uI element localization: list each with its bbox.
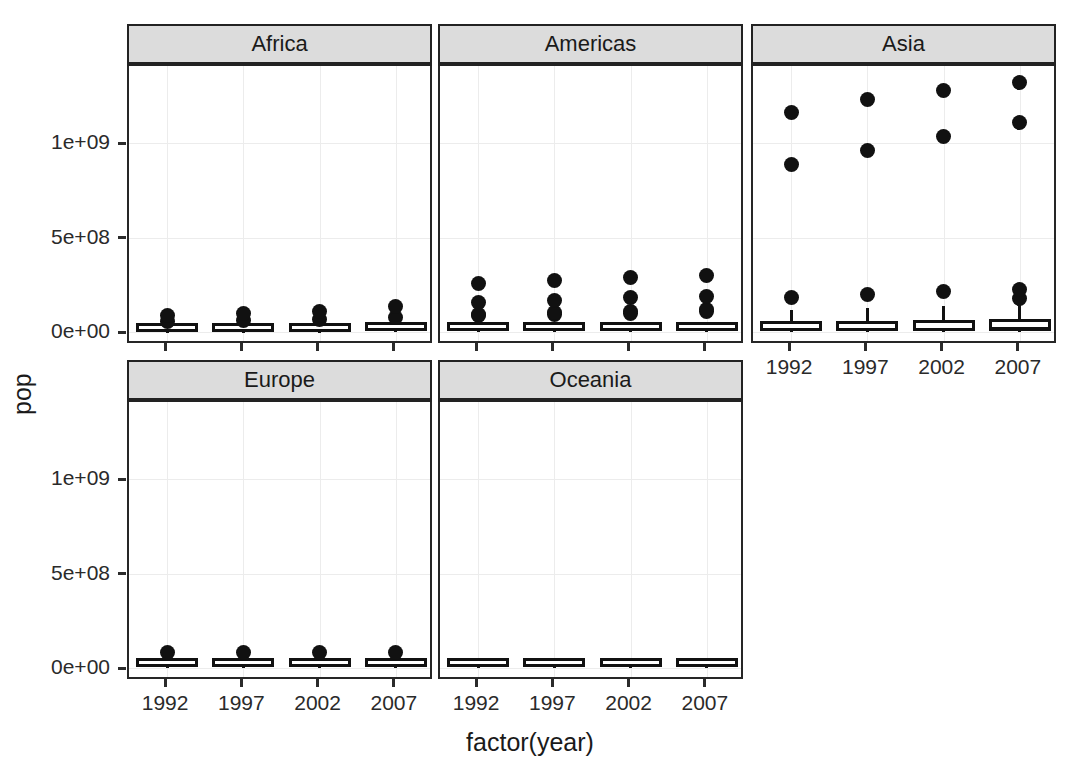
median-line bbox=[676, 664, 738, 667]
outlier-point bbox=[699, 268, 714, 283]
whisker-lower bbox=[166, 667, 169, 668]
x-axis-title: factor(year) bbox=[330, 728, 730, 757]
x-tick-mark bbox=[164, 679, 167, 687]
gridline-vertical bbox=[554, 402, 555, 677]
y-tick-label: 1e+09 bbox=[0, 130, 110, 154]
outlier-point bbox=[784, 105, 799, 120]
median-line bbox=[600, 664, 662, 667]
panel-body-europe bbox=[127, 402, 432, 679]
outlier-point bbox=[547, 293, 562, 308]
x-tick-label: 2007 bbox=[665, 691, 745, 715]
whisker-lower bbox=[629, 331, 632, 332]
outlier-point bbox=[860, 143, 875, 158]
gridline-horizontal bbox=[440, 574, 741, 575]
median-line bbox=[136, 329, 198, 332]
y-tick-mark bbox=[118, 478, 126, 481]
whisker-upper bbox=[1018, 305, 1021, 319]
x-tick-mark bbox=[475, 679, 478, 687]
gridline-horizontal bbox=[440, 238, 741, 239]
median-line bbox=[212, 664, 274, 667]
x-tick-mark bbox=[551, 679, 554, 687]
x-tick-label: 1992 bbox=[125, 691, 205, 715]
median-line bbox=[989, 327, 1051, 330]
y-tick-label: 5e+08 bbox=[0, 225, 110, 249]
panel-body-americas bbox=[438, 66, 743, 343]
gridline-horizontal bbox=[129, 574, 430, 575]
gridline-vertical bbox=[167, 66, 168, 341]
outlier-point bbox=[623, 304, 638, 319]
gridline-horizontal bbox=[440, 332, 741, 333]
median-line bbox=[523, 664, 585, 667]
outlier-point bbox=[860, 92, 875, 107]
gridline-vertical bbox=[320, 402, 321, 677]
median-line bbox=[676, 328, 738, 331]
x-tick-label: 1992 bbox=[436, 691, 516, 715]
x-tick-mark bbox=[316, 343, 319, 351]
panel-strip-label: Africa bbox=[251, 33, 307, 55]
x-tick-mark bbox=[627, 343, 630, 351]
y-tick-label: 0e+00 bbox=[0, 319, 110, 343]
whisker-lower bbox=[394, 667, 397, 668]
whisker-lower bbox=[790, 331, 793, 332]
x-tick-mark bbox=[240, 679, 243, 687]
gridline-vertical bbox=[243, 66, 244, 341]
gridline-horizontal bbox=[129, 332, 430, 333]
whisker-lower bbox=[553, 331, 556, 332]
gridline-vertical bbox=[243, 402, 244, 677]
x-tick-mark bbox=[703, 343, 706, 351]
x-tick-mark bbox=[240, 343, 243, 351]
median-line bbox=[289, 664, 351, 667]
outlier-point bbox=[1012, 75, 1027, 90]
panel-strip-oceania: Oceania bbox=[438, 360, 743, 402]
whisker-lower bbox=[1018, 331, 1021, 332]
outlier-point bbox=[312, 304, 327, 319]
outlier-point bbox=[936, 284, 951, 299]
gridline-vertical bbox=[396, 402, 397, 677]
y-tick-label: 5e+08 bbox=[0, 561, 110, 585]
outlier-point bbox=[471, 276, 486, 291]
panel-strip-asia: Asia bbox=[751, 24, 1056, 66]
y-tick-mark bbox=[118, 331, 126, 334]
gridline-vertical bbox=[167, 402, 168, 677]
x-tick-mark bbox=[392, 679, 395, 687]
gridline-horizontal bbox=[129, 143, 430, 144]
outlier-point bbox=[623, 290, 638, 305]
panel-strip-label: Europe bbox=[244, 369, 315, 391]
median-line bbox=[523, 328, 585, 331]
x-tick-label: 1997 bbox=[825, 355, 905, 379]
median-line bbox=[913, 328, 975, 331]
gridline-horizontal bbox=[129, 238, 430, 239]
median-line bbox=[760, 328, 822, 331]
outlier-point bbox=[547, 273, 562, 288]
gridline-vertical bbox=[320, 66, 321, 341]
median-line bbox=[447, 328, 509, 331]
whisker-lower bbox=[942, 331, 945, 332]
gridline-horizontal bbox=[753, 238, 1054, 239]
x-tick-mark bbox=[940, 343, 943, 351]
whisker-upper bbox=[942, 306, 945, 319]
y-tick-mark bbox=[118, 236, 126, 239]
whisker-lower bbox=[866, 331, 869, 332]
panel-strip-americas: Americas bbox=[438, 24, 743, 66]
panel-body-asia bbox=[751, 66, 1056, 343]
median-line bbox=[212, 329, 274, 332]
x-tick-mark bbox=[392, 343, 395, 351]
panel-strip-europe: Europe bbox=[127, 360, 432, 402]
whisker-upper bbox=[866, 308, 869, 320]
outlier-point bbox=[312, 645, 327, 660]
y-tick-label: 0e+00 bbox=[0, 655, 110, 679]
x-tick-label: 1997 bbox=[512, 691, 592, 715]
y-tick-mark bbox=[118, 667, 126, 670]
median-line bbox=[365, 664, 427, 667]
x-tick-mark bbox=[551, 343, 554, 351]
outlier-point bbox=[236, 306, 251, 321]
gridline-horizontal bbox=[440, 143, 741, 144]
x-tick-label: 2002 bbox=[589, 691, 669, 715]
outlier-point bbox=[784, 290, 799, 305]
gridline-vertical bbox=[478, 402, 479, 677]
x-tick-mark bbox=[164, 343, 167, 351]
outlier-point bbox=[471, 295, 486, 310]
gridline-horizontal bbox=[440, 668, 741, 669]
x-tick-label: 2007 bbox=[354, 691, 434, 715]
gridline-horizontal bbox=[753, 143, 1054, 144]
